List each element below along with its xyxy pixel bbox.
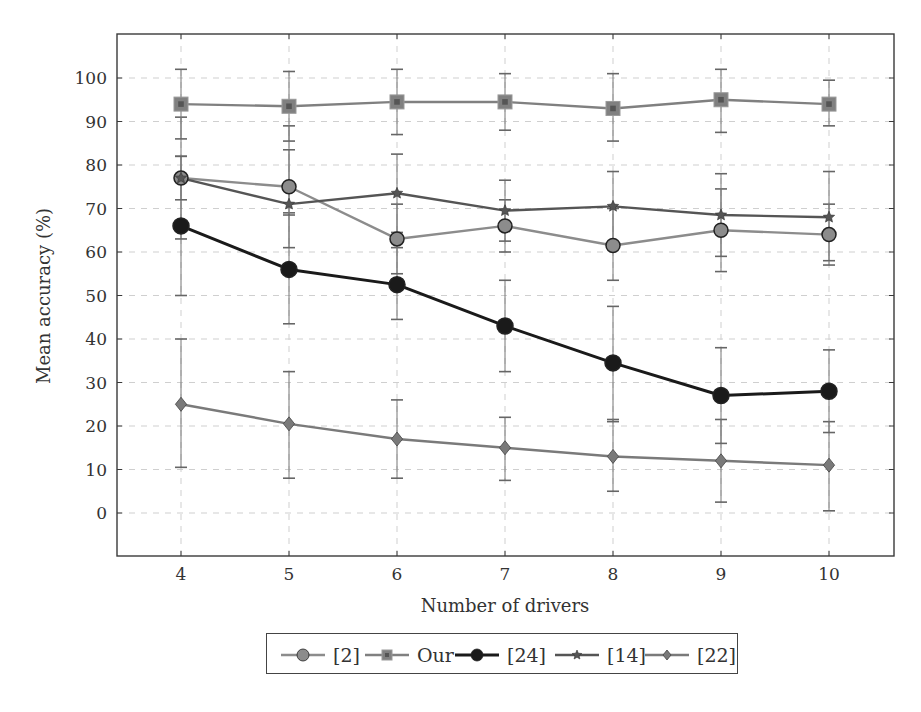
- legend-label: [14]: [607, 644, 646, 666]
- y-tick-label: 60: [85, 242, 107, 262]
- y-tick-label: 20: [85, 416, 107, 436]
- y-tick-label: 80: [85, 155, 107, 175]
- x-tick-label: 10: [818, 564, 840, 584]
- data-point-marker: [497, 318, 513, 334]
- y-tick-label: 40: [85, 329, 107, 349]
- data-point-marker: [822, 228, 836, 242]
- x-tick-label: 7: [500, 564, 511, 584]
- x-tick-label: 6: [392, 564, 403, 584]
- legend-entries: [2]Our[24][14][22]: [267, 634, 739, 675]
- legend-item: [2]: [281, 644, 360, 666]
- chart-canvas: 0102030405060708090100 45678910 Number o…: [0, 0, 921, 712]
- y-tick-label: 90: [85, 112, 107, 132]
- data-point-marker: [283, 417, 294, 431]
- y-tick-label: 30: [85, 373, 107, 393]
- y-tick-label: 10: [85, 460, 107, 480]
- legend-item: [24]: [455, 644, 546, 666]
- data-point-marker: [498, 219, 512, 233]
- data-point-marker: [605, 355, 621, 371]
- x-axis-ticks: 45678910: [176, 34, 840, 584]
- data-point-marker: [606, 238, 620, 252]
- y-tick-label: 0: [96, 503, 107, 523]
- x-tick-label: 9: [716, 564, 727, 584]
- data-point-marker: [389, 277, 405, 293]
- legend-label: [22]: [697, 644, 736, 666]
- data-point-marker: [282, 180, 296, 194]
- y-axis-ticks: 0102030405060708090100: [75, 68, 894, 523]
- data-point-marker: [713, 388, 729, 404]
- y-axis-label: Mean accuracy (%): [33, 208, 54, 384]
- legend-marker-icon: [297, 649, 309, 661]
- legend: [2]Our[24][14][22]: [266, 633, 738, 674]
- data-point-marker: [391, 432, 402, 446]
- legend-item: [22]: [645, 644, 736, 666]
- data-point-marker: [173, 218, 189, 234]
- data-point-marker: [607, 449, 618, 463]
- data-point-marker: [714, 223, 728, 237]
- data-point-marker: [175, 397, 186, 411]
- legend-label: [2]: [333, 644, 360, 666]
- y-tick-label: 100: [75, 68, 107, 88]
- data-point-marker: [499, 441, 510, 455]
- data-point-marker: [715, 454, 726, 468]
- legend-label: Our: [417, 644, 455, 666]
- legend-item: Our: [365, 644, 455, 666]
- legend-marker-icon: [663, 650, 671, 660]
- legend-label: [24]: [507, 644, 546, 666]
- legend-marker-icon: [471, 649, 483, 661]
- x-axis-label: Number of drivers: [421, 595, 590, 616]
- legend-marker-icon: [572, 650, 582, 659]
- x-tick-label: 5: [284, 564, 295, 584]
- legend-item: [14]: [555, 644, 646, 666]
- data-point-marker: [390, 232, 404, 246]
- y-tick-label: 70: [85, 199, 107, 219]
- data-point-marker: [281, 261, 297, 277]
- data-point-marker: [823, 458, 834, 472]
- data-point-marker: [821, 383, 837, 399]
- x-tick-label: 8: [608, 564, 619, 584]
- y-tick-label: 50: [85, 286, 107, 306]
- x-tick-label: 4: [176, 564, 187, 584]
